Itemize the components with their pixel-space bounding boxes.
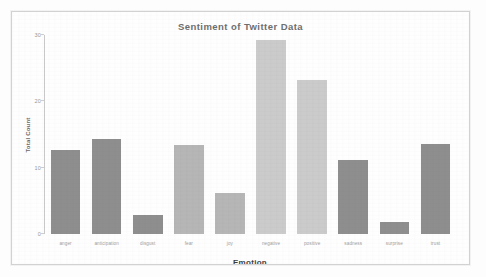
y-axis-title: Total Count (25, 117, 31, 152)
bar-group: surprise (374, 35, 415, 234)
y-tick-mark (41, 233, 44, 234)
bar-surprise[interactable] (380, 222, 410, 234)
bar-group: joy (209, 35, 250, 234)
bar-fear[interactable] (174, 145, 204, 234)
y-tick-mark (41, 34, 44, 35)
y-tick-label: 20 (25, 98, 41, 104)
bar-group: anticipation (86, 35, 127, 234)
chart-title: Sentiment of Twitter Data (12, 21, 469, 32)
x-tick-label: fear (185, 241, 193, 246)
bar-trust[interactable] (421, 144, 451, 234)
bar-group: sadness (333, 35, 374, 234)
x-tick-label: sadness (344, 241, 362, 246)
x-tick-label: trust (431, 241, 440, 246)
bar-negative[interactable] (256, 40, 286, 234)
y-tick-label: 0 (25, 231, 41, 237)
bar-group: fear (168, 35, 209, 234)
x-axis-title: Emotion (44, 258, 456, 265)
x-tick-label: anger (59, 241, 71, 246)
x-tick-label: negative (262, 241, 280, 246)
bar-anger[interactable] (51, 150, 81, 234)
bar-joy[interactable] (215, 193, 245, 234)
bar-group: negative (251, 35, 292, 234)
bar-group: positive (292, 35, 333, 234)
bar-group: trust (415, 35, 456, 234)
bar-positive[interactable] (297, 80, 327, 234)
y-tick-label: 10 (25, 165, 41, 171)
chart-figure-frame: Sentiment of Twitter Data Total Count 01… (11, 11, 470, 265)
y-tick-mark (41, 100, 44, 101)
bar-anticipation[interactable] (92, 139, 122, 234)
plot-area: Total Count 0102030 angeranticipationdis… (44, 35, 456, 234)
bar-group: disgust (127, 35, 168, 234)
bar-group: anger (45, 35, 86, 234)
y-tick-mark (41, 167, 44, 168)
x-tick-label: anticipation (94, 241, 118, 246)
x-tick-label: disgust (140, 241, 155, 246)
x-tick-label: joy (227, 241, 233, 246)
x-tick-label: positive (304, 241, 320, 246)
x-tick-label: surprise (386, 241, 403, 246)
bar-disgust[interactable] (133, 215, 163, 234)
y-tick-label: 30 (25, 32, 41, 38)
bar-series: angeranticipationdisgustfearjoynegativep… (45, 35, 456, 234)
bar-sadness[interactable] (338, 160, 368, 234)
